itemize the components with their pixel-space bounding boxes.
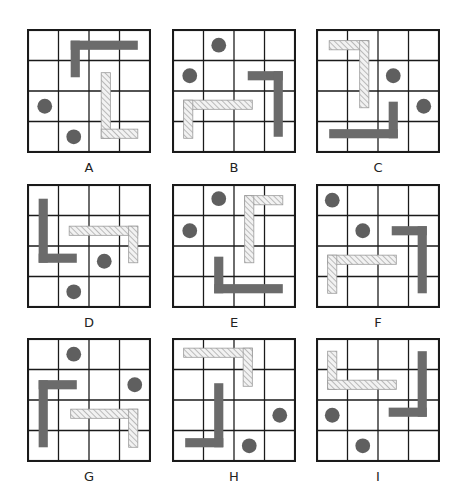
solid-bar <box>418 226 427 293</box>
hatched-bar <box>184 348 253 357</box>
hatched-bar <box>184 100 193 138</box>
panel-label: A <box>27 160 151 175</box>
solid-bar <box>39 199 48 263</box>
dot <box>66 129 81 144</box>
dot <box>416 99 431 114</box>
grid <box>316 338 440 462</box>
hatched-l-shape <box>71 409 138 447</box>
dot <box>355 438 370 453</box>
dot <box>66 284 81 299</box>
hatched-bar <box>129 409 138 447</box>
grid <box>316 184 440 308</box>
solid-l-shape <box>392 226 427 293</box>
panel-i[interactable]: I <box>316 338 440 488</box>
solid-bar <box>39 380 48 447</box>
panel-d[interactable]: D <box>27 184 151 334</box>
dot <box>386 68 401 83</box>
hatched-l-shape <box>245 196 283 263</box>
dot <box>211 38 226 53</box>
solid-l-shape <box>248 71 283 137</box>
grid <box>316 29 440 153</box>
dot <box>127 377 142 392</box>
solid-l-shape <box>185 383 223 447</box>
panel-g[interactable]: G <box>27 338 151 488</box>
dot <box>242 438 257 453</box>
panel-c[interactable]: C <box>316 29 440 179</box>
hatched-bar <box>129 226 138 263</box>
hatched-bar <box>101 129 138 138</box>
solid-bar <box>389 408 427 417</box>
grid <box>27 338 151 462</box>
solid-bar <box>418 351 427 417</box>
panel-label: F <box>316 315 440 330</box>
hatched-bar <box>69 226 138 235</box>
dot <box>325 193 340 208</box>
hatched-bar <box>243 348 252 386</box>
hatched-bar <box>101 73 110 139</box>
solid-l-shape <box>71 41 138 78</box>
dot <box>355 223 370 238</box>
panel-label: C <box>316 160 440 175</box>
hatched-l-shape <box>328 351 397 389</box>
panel-a[interactable]: A <box>27 29 151 179</box>
grid <box>172 338 296 462</box>
dot <box>182 223 197 238</box>
panel-label: E <box>172 315 296 330</box>
panel-e[interactable]: E <box>172 184 296 334</box>
panel-label: I <box>316 469 440 484</box>
grid <box>27 29 151 153</box>
dot <box>66 347 81 362</box>
solid-bar <box>39 254 77 263</box>
hatched-bar <box>360 41 369 108</box>
hatched-l-shape <box>329 41 369 108</box>
dot <box>37 99 52 114</box>
panel-label: D <box>27 315 151 330</box>
grid <box>172 184 296 308</box>
hatched-l-shape <box>328 255 397 293</box>
hatched-bar <box>328 255 397 264</box>
hatched-bar <box>71 409 138 418</box>
grid <box>172 29 296 153</box>
dot <box>97 254 112 269</box>
dot <box>182 68 197 83</box>
panel-b[interactable]: B <box>172 29 296 179</box>
solid-bar <box>329 129 398 138</box>
solid-bar <box>185 438 223 447</box>
dot <box>325 408 340 423</box>
hatched-l-shape <box>184 348 253 386</box>
solid-bar <box>71 41 138 50</box>
solid-bar <box>214 284 283 293</box>
grid <box>27 184 151 308</box>
hatched-bar <box>245 196 254 263</box>
solid-bar <box>71 41 80 78</box>
dot <box>272 408 287 423</box>
hatched-bar <box>328 380 397 389</box>
panel-label: H <box>172 469 296 484</box>
hatched-l-shape <box>184 100 253 138</box>
solid-bar <box>274 71 283 137</box>
hatched-bar <box>184 100 253 109</box>
dot <box>211 191 226 206</box>
panel-h[interactable]: H <box>172 338 296 488</box>
solid-bar <box>214 383 223 447</box>
panel-label: G <box>27 469 151 484</box>
hatched-bar <box>328 255 337 293</box>
panel-label: B <box>172 160 296 175</box>
panel-f[interactable]: F <box>316 184 440 334</box>
